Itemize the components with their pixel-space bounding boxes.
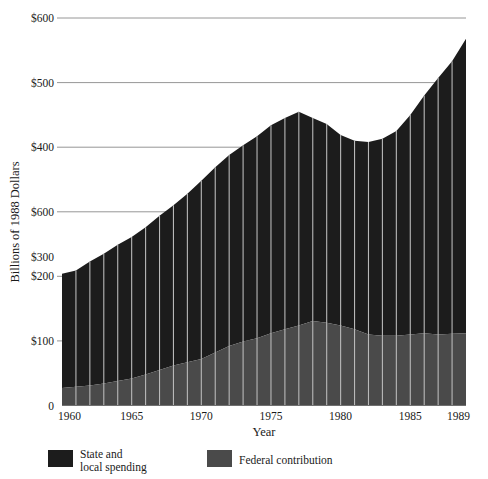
legend-swatch-0 xyxy=(48,450,73,467)
x-axis-title: Year xyxy=(252,425,276,439)
y-tick-label-1: $500 xyxy=(31,77,54,89)
y-tick-label-5: $200 xyxy=(31,270,54,282)
y-tick-label-0: $600 xyxy=(31,12,54,24)
x-tick-label-1980: 1980 xyxy=(329,410,352,422)
legend-label-0-line1: State and xyxy=(80,448,123,460)
y-tick-label-6: $100 xyxy=(31,335,54,347)
y-tick-label-4: $300 xyxy=(31,251,54,263)
y-tick-label-3: $600 xyxy=(31,206,54,218)
x-axis-tick-labels: 1960196519701975198019851989 xyxy=(58,410,470,422)
x-tick-label-1965: 1965 xyxy=(120,410,143,422)
chart-figure: $600$500$400$600$300$200$1000 1960196519… xyxy=(0,0,488,479)
legend-swatch-1 xyxy=(207,450,232,467)
x-tick-label-1989: 1989 xyxy=(447,410,470,422)
legend-label-1-line1: Federal contribution xyxy=(239,454,333,466)
stacked-area-chart: $600$500$400$600$300$200$1000 1960196519… xyxy=(0,0,488,479)
x-tick-label-1975: 1975 xyxy=(260,410,283,422)
x-tick-label-1970: 1970 xyxy=(190,410,213,422)
y-tick-label-7: 0 xyxy=(48,400,54,412)
y-axis-title: Billions of 1988 Dollars xyxy=(8,161,22,282)
legend-label-0-line2: local spending xyxy=(80,461,147,474)
x-tick-label-1960: 1960 xyxy=(58,410,81,422)
x-tick-label-1985: 1985 xyxy=(399,410,422,422)
y-tick-label-2: $400 xyxy=(31,141,54,153)
